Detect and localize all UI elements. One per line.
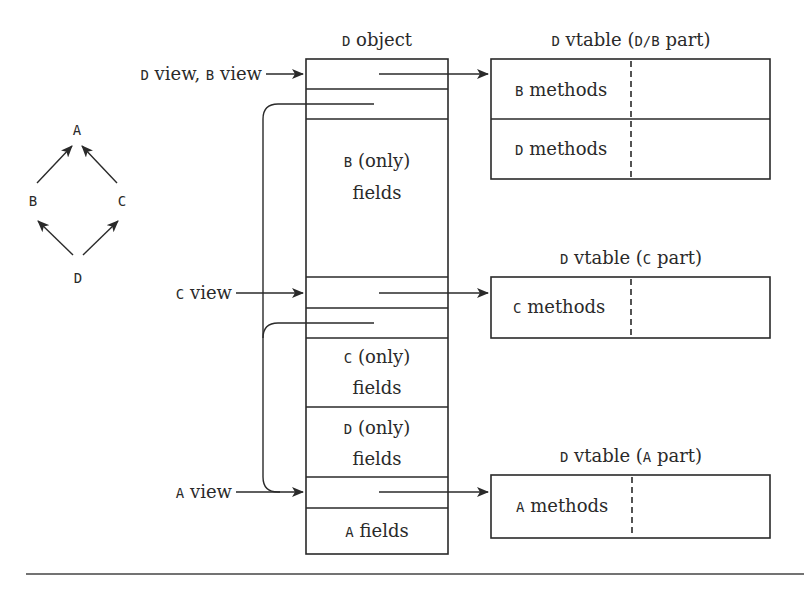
vtable-c-title: D vtable (C part) [560,247,702,268]
c-fields-label: C (only) [344,346,411,367]
edge-b-to-a-arrow-icon [37,146,72,183]
vtable-db-title: D vtable (D/B part) [551,29,710,50]
node-d: D [74,270,82,286]
vbptr-c-to-a-connector [263,323,374,338]
vtable-db-row-b: B methods [515,79,607,100]
object-title: D object [342,29,413,50]
edge-d-to-b-arrow-icon [38,221,73,255]
d-fields-label: D (only) [344,417,411,438]
vtable-a: D vtable (A part) A methods [491,445,770,538]
b-fields-label-2: fields [352,182,401,203]
node-c: C [118,193,126,209]
c-fields-label-2: fields [352,377,401,398]
class-hierarchy: A B C D [29,122,126,286]
object-layout: B (only) fields C (only) fields D (only)… [306,59,448,554]
a-view-label: A view [176,481,233,502]
edge-c-to-a-arrow-icon [82,146,117,183]
c-view-label: C view [176,282,233,303]
a-fields-label: A fields [345,520,408,541]
vtable-a-title: D vtable (A part) [560,445,702,466]
vtable-a-row-a: A methods [516,495,608,516]
node-b: B [29,193,37,209]
vtable-c: D vtable (C part) C methods [491,247,770,338]
vtable-db-row-d: D methods [515,138,607,159]
b-fields-label: B (only) [344,150,411,171]
object-box [306,59,448,554]
multiple-inheritance-diagram: A B C D D object B (only) fields C (only… [0,0,804,591]
edge-d-to-c-arrow-icon [83,221,118,255]
d-fields-label-2: fields [352,448,401,469]
vtable-c-row-c: C methods [513,296,605,317]
db-view-label: D view, B view [140,63,262,84]
vtable-db: D vtable (D/B part) B methods D methods [491,29,770,179]
node-a: A [73,122,82,138]
